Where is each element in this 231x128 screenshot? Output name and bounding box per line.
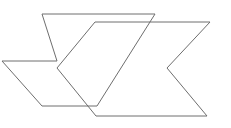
figure-canvas: [0, 0, 231, 128]
chevron-figure-svg: [0, 0, 231, 128]
canvas-background: [0, 0, 231, 128]
